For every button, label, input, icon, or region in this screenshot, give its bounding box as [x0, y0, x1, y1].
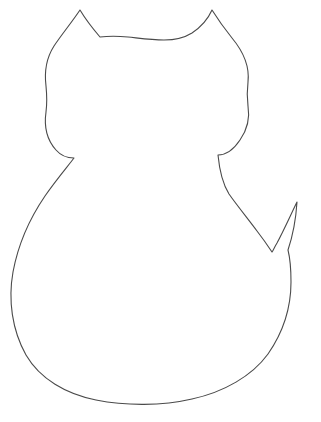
- artwork-background: [0, 0, 321, 422]
- cat-outline-artwork: [0, 0, 321, 422]
- document-canvas: [0, 0, 321, 422]
